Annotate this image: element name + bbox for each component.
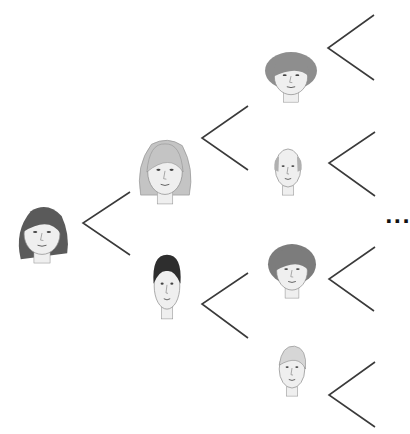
branch-maternal-grandfather [329,132,375,196]
face-father [153,255,180,319]
branch-father [202,273,248,338]
face-maternal-grandfather [274,149,301,195]
family-tree-diagram [0,0,410,434]
face-portraits [19,52,317,396]
face-maternal-grandmother [265,52,317,102]
branch-mother [202,106,248,170]
face-paternal-grandmother [268,244,316,298]
face-self [19,207,68,263]
branch-paternal-grandmother [329,247,375,311]
face-mother [139,140,191,204]
branch-lines [83,15,375,427]
branch-self [83,192,130,255]
face-paternal-grandfather [279,346,305,396]
branch-maternal-grandmother [328,15,374,80]
continuation-ellipsis: ... [385,206,410,226]
branch-paternal-grandfather [329,362,375,427]
